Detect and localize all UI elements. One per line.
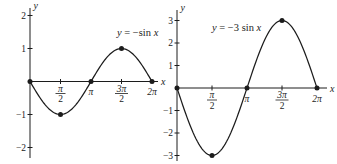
y-tick-label: −1 [163, 106, 173, 116]
x-tick-label-denominator: 2 [58, 94, 63, 104]
x-tick-label-numerator: π [58, 84, 63, 94]
left-graph: xy21−1−2π2π3π22πy = −sin x [16, 0, 166, 158]
y-axis-label: y [33, 0, 39, 11]
x-tick-label-numerator: π [210, 90, 215, 100]
x-tick-label-denominator: 2 [210, 101, 215, 111]
y-tick-label: 1 [21, 44, 26, 54]
curve-point-dot [315, 86, 320, 91]
right-graph: xy321−1−2−3π2π3π22πy = −3 sin x [163, 2, 335, 161]
sine-graphs-svg: xy21−1−2π2π3π22πy = −sin xxy321−1−2−3π2π… [0, 0, 337, 164]
x-axis-label: x [329, 83, 335, 94]
x-axis-label: x [160, 76, 166, 87]
y-tick-label: 2 [168, 38, 173, 48]
curve-point-dot [89, 79, 94, 84]
x-tick-label-denominator: 2 [280, 101, 285, 111]
y-tick-label: 2 [21, 11, 26, 21]
x-tick-label: 2π [312, 94, 322, 104]
curve-point-dot [175, 86, 180, 91]
x-tick-label-numerator: 3π [116, 84, 127, 94]
curve-point-dot [150, 79, 155, 84]
x-tick-label: π [245, 94, 250, 104]
curve-point-dot [119, 46, 124, 51]
x-tick-label-numerator: 3π [276, 90, 287, 100]
x-tick-label: π [89, 87, 94, 97]
curve-point-dot [280, 18, 285, 23]
equation-label: y = −sin x [116, 27, 159, 38]
figure: xy21−1−2π2π3π22πy = −sin xxy321−1−2−3π2π… [0, 0, 337, 164]
equation-label: y = −3 sin x [211, 22, 262, 33]
y-tick-label: 1 [168, 61, 173, 71]
y-tick-label: −3 [163, 151, 173, 161]
x-tick-label-denominator: 2 [119, 94, 124, 104]
curve-point-dot [58, 112, 63, 117]
y-tick-label: 3 [168, 16, 173, 26]
x-tick-label: 2π [147, 87, 157, 97]
y-tick-label: −1 [16, 110, 26, 120]
curve-point-dot [28, 79, 33, 84]
y-axis-label: y [180, 2, 186, 13]
curve-point-dot [210, 153, 215, 158]
y-tick-label: −2 [16, 143, 26, 153]
y-tick-label: −2 [163, 128, 173, 138]
curve-point-dot [245, 86, 250, 91]
